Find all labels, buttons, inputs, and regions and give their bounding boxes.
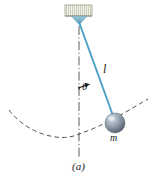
ceiling-support — [65, 5, 92, 16]
pendulum-figure: l θ m (a) — [0, 0, 157, 180]
pendulum-diagram-canvas — [0, 0, 157, 180]
angle-label: θ — [82, 81, 87, 92]
panel-caption: (a) — [0, 160, 157, 172]
swing-path-arc — [9, 99, 148, 138]
pendulum-bob — [105, 113, 125, 133]
length-label: l — [103, 63, 106, 75]
mass-label: m — [110, 133, 117, 143]
pendulum-string — [79, 22, 116, 123]
